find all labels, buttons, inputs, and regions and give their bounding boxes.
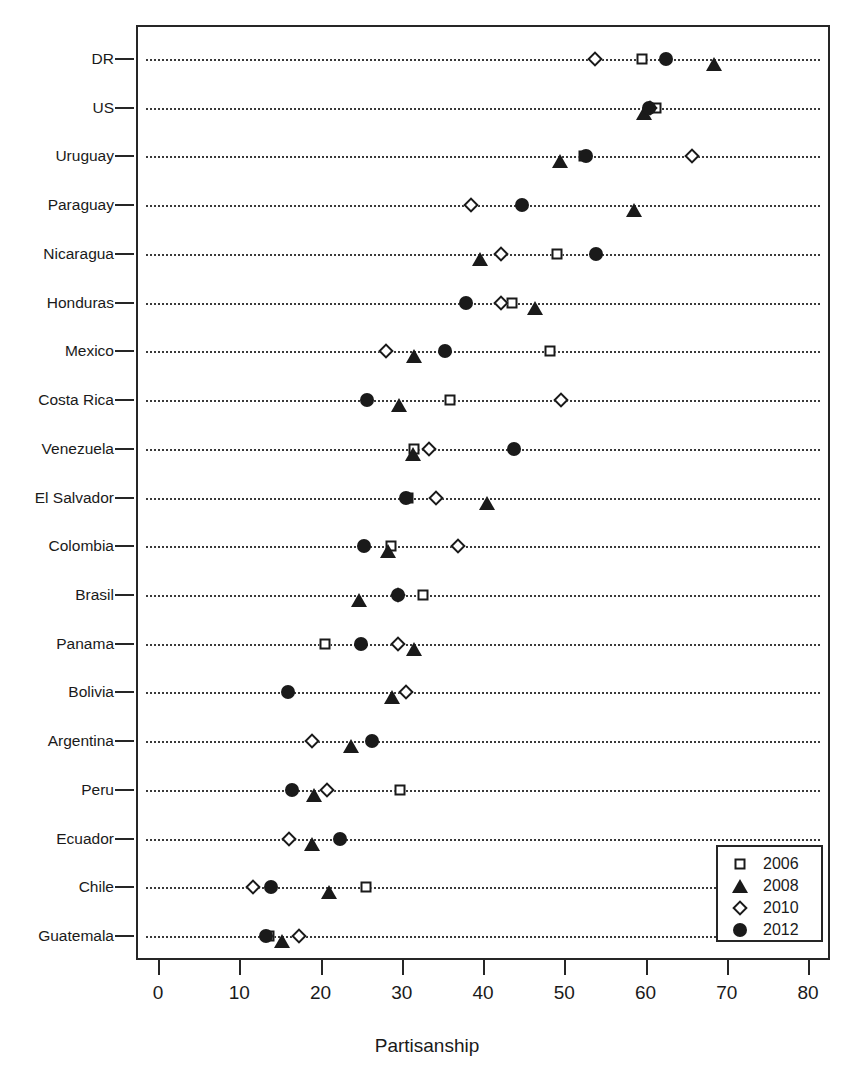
- gridline-row: [146, 546, 820, 548]
- y-axis-tick: [115, 448, 134, 450]
- marker-filled-circle: [642, 101, 656, 115]
- marker-filled-circle: [579, 149, 593, 163]
- marker-filled-triangle: [706, 57, 722, 71]
- marker-open-diamond: [291, 928, 307, 944]
- marker-open-diamond: [281, 831, 297, 847]
- legend-item[interactable]: 2012: [718, 919, 821, 941]
- marker-filled-triangle: [472, 252, 488, 266]
- marker-open-square: [418, 589, 429, 600]
- gridline-row: [146, 741, 820, 743]
- y-axis-tick: [115, 789, 134, 791]
- marker-open-square: [636, 54, 647, 65]
- y-axis-tick: [115, 155, 134, 157]
- y-axis-tick-label: Colombia: [49, 537, 114, 555]
- marker-filled-circle: [365, 734, 379, 748]
- marker-open-diamond: [684, 149, 700, 165]
- gridline-row: [146, 156, 820, 158]
- y-axis-tick-label: Paraguay: [48, 196, 114, 214]
- x-axis-tick: [239, 960, 241, 975]
- gridline-row: [146, 351, 820, 353]
- x-axis-tick-label: 30: [391, 982, 412, 1004]
- marker-open-square: [545, 346, 556, 357]
- marker-filled-circle: [391, 588, 405, 602]
- x-axis-tick: [808, 960, 810, 975]
- marker-filled-circle: [354, 637, 368, 651]
- legend-item[interactable]: 2006: [718, 853, 821, 875]
- y-axis-tick: [115, 107, 134, 109]
- y-axis-tick-label: Venezuela: [42, 440, 114, 458]
- marker-open-square: [319, 638, 330, 649]
- y-axis-tick: [115, 399, 134, 401]
- marker-open-square: [394, 784, 405, 795]
- marker-open-diamond: [246, 879, 262, 895]
- marker-filled-triangle: [321, 885, 337, 899]
- y-axis-tick: [115, 497, 134, 499]
- y-axis-tick: [115, 594, 134, 596]
- y-axis-tick: [115, 740, 134, 742]
- y-axis-tick-label: El Salvador: [35, 489, 114, 507]
- marker-open-diamond: [304, 733, 320, 749]
- marker-filled-circle: [438, 344, 452, 358]
- x-axis-tick: [158, 960, 160, 975]
- marker-open-diamond: [587, 51, 603, 67]
- y-axis-tick-label: Guatemala: [38, 927, 114, 945]
- legend-item[interactable]: 2010: [718, 897, 821, 919]
- marker-filled-circle: [515, 198, 529, 212]
- y-axis-tick-label: Honduras: [47, 294, 114, 312]
- marker-open-square: [445, 395, 456, 406]
- y-axis-tick: [115, 545, 134, 547]
- marker-filled-circle: [281, 685, 295, 699]
- y-axis-tick: [115, 886, 134, 888]
- y-axis-tick-label: Bolivia: [68, 683, 114, 701]
- legend-item[interactable]: 2008: [718, 875, 821, 897]
- legend-label: 2010: [763, 899, 799, 917]
- y-axis-tick: [115, 204, 134, 206]
- marker-open-diamond: [732, 900, 748, 916]
- x-axis-tick: [321, 960, 323, 975]
- marker-open-diamond: [428, 490, 444, 506]
- marker-filled-triangle: [552, 154, 568, 168]
- legend-label: 2012: [763, 921, 799, 939]
- plot-area: [136, 25, 830, 960]
- y-axis-tick-label: US: [92, 99, 114, 117]
- gridline-row: [146, 303, 820, 305]
- marker-filled-circle: [733, 923, 747, 937]
- marker-open-diamond: [398, 685, 414, 701]
- gridline-row: [146, 449, 820, 451]
- y-axis-tick-label: Mexico: [65, 342, 114, 360]
- marker-open-diamond: [554, 392, 570, 408]
- marker-filled-triangle: [405, 447, 421, 461]
- marker-filled-triangle: [391, 398, 407, 412]
- marker-filled-triangle: [626, 203, 642, 217]
- x-axis-tick-label: 10: [229, 982, 250, 1004]
- gridline-row: [146, 692, 820, 694]
- gridline-row: [146, 205, 820, 207]
- x-axis-title: Partisanship: [0, 1035, 854, 1057]
- y-axis-tick-label: Nicaragua: [43, 245, 114, 263]
- x-axis-tick: [483, 960, 485, 975]
- marker-filled-circle: [459, 296, 473, 310]
- marker-filled-triangle: [351, 593, 367, 607]
- y-axis-tick-label: Argentina: [48, 732, 114, 750]
- y-axis-labels: DRUSUruguayParaguayNicaraguaHondurasMexi…: [0, 25, 136, 960]
- x-axis: 01020304050607080: [136, 960, 830, 1020]
- marker-filled-triangle: [406, 349, 422, 363]
- marker-filled-triangle: [479, 496, 495, 510]
- x-axis-tick-label: 60: [635, 982, 656, 1004]
- marker-open-diamond: [378, 344, 394, 360]
- marker-open-square: [551, 248, 562, 259]
- marker-filled-triangle: [406, 642, 422, 656]
- marker-filled-triangle: [732, 879, 748, 893]
- marker-open-diamond: [493, 246, 509, 262]
- marker-filled-circle: [264, 880, 278, 894]
- y-axis-tick-label: Panama: [56, 635, 114, 653]
- y-axis-tick-label: Costa Rica: [38, 391, 114, 409]
- y-axis-tick-label: Chile: [79, 878, 114, 896]
- marker-open-diamond: [463, 197, 479, 213]
- gridline-row: [146, 595, 820, 597]
- marker-filled-triangle: [527, 301, 543, 315]
- marker-filled-circle: [589, 247, 603, 261]
- marker-filled-triangle: [274, 934, 290, 948]
- y-axis-tick: [115, 643, 134, 645]
- gridline-row: [146, 790, 820, 792]
